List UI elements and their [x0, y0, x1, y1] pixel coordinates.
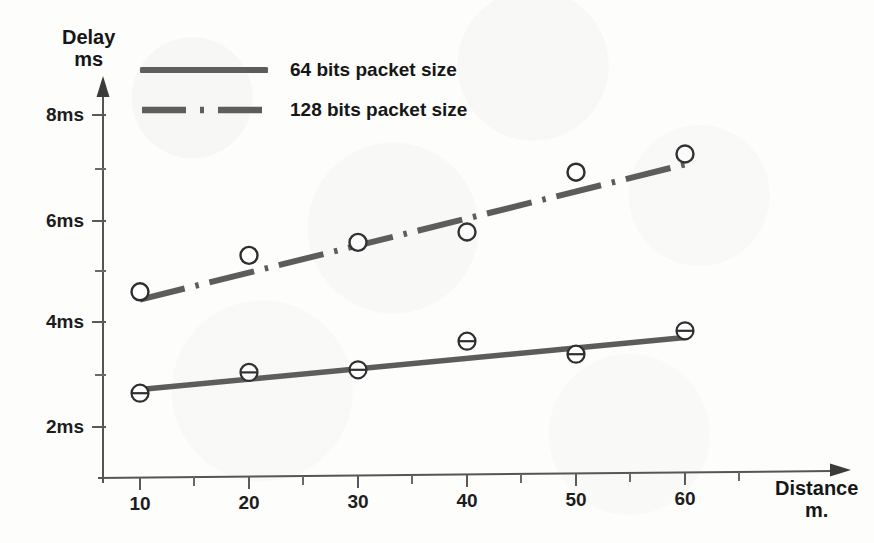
series-64bits	[132, 322, 694, 401]
data-point-marker	[677, 146, 694, 163]
data-point-marker	[132, 283, 149, 300]
legend-swatch-dash-dot	[140, 101, 268, 119]
y-axis-title: Delay ms	[62, 26, 115, 71]
legend-item-64bits: 64 bits packet size	[140, 50, 467, 90]
y-tick-label-6ms: 6ms	[12, 210, 84, 232]
x-tick-label-60: 60	[661, 488, 709, 510]
series-128bits	[132, 146, 694, 301]
x-tick-label-40: 40	[443, 490, 491, 512]
data-point-marker	[568, 164, 585, 181]
chart-legend: 64 bits packet size 128 bits packet size	[140, 50, 467, 130]
x-axis-title-line2: m.	[775, 499, 858, 521]
legend-item-128bits: 128 bits packet size	[140, 90, 467, 130]
chart-figure: 8ms 6ms 4ms 2ms 10 20 30 40 50 60 Delay …	[0, 0, 874, 543]
y-axis-title-line1: Delay	[62, 26, 115, 48]
y-tick-label-2ms: 2ms	[12, 416, 84, 438]
y-axis-title-line2: ms	[62, 48, 115, 70]
x-tick-label-50: 50	[552, 489, 600, 511]
x-tick-label-30: 30	[334, 491, 382, 513]
legend-label-64bits: 64 bits packet size	[290, 59, 457, 81]
legend-swatch-solid	[140, 61, 268, 79]
y-tick-label-4ms: 4ms	[12, 311, 84, 333]
data-point-marker	[459, 224, 476, 241]
data-point-marker	[350, 234, 367, 251]
x-axis-title-line1: Distance	[775, 477, 858, 499]
series-128bits-markers	[132, 146, 694, 301]
y-tick-label-8ms: 8ms	[12, 104, 84, 126]
x-tick-label-10: 10	[116, 493, 164, 515]
y-axis	[92, 76, 110, 483]
x-axis-title: Distance m.	[775, 477, 858, 522]
x-axis	[98, 464, 851, 491]
legend-label-128bits: 128 bits packet size	[290, 99, 467, 121]
data-point-marker	[241, 247, 258, 264]
x-tick-label-20: 20	[225, 492, 273, 514]
